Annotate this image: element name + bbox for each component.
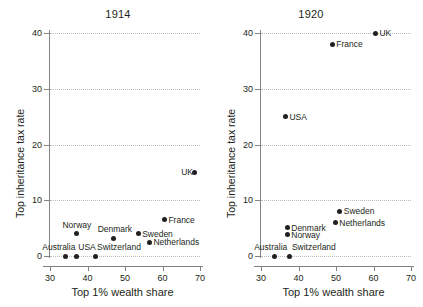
y-tick-10	[44, 200, 50, 201]
data-point	[285, 225, 290, 230]
data-point	[147, 240, 152, 245]
data-point	[283, 114, 288, 119]
data-point	[136, 231, 141, 236]
y-tick-label-30: 30	[20, 84, 42, 94]
y-axis-title: Top inheritance tax rate	[225, 109, 237, 218]
x-tick-70	[200, 266, 201, 271]
gridline-y-30	[50, 89, 200, 90]
data-point	[272, 254, 277, 259]
data-point-label: UK	[379, 29, 391, 38]
data-point-label: Netherlands	[339, 219, 385, 228]
gridline-y-10	[50, 200, 200, 201]
x-tick-60	[163, 266, 164, 271]
data-point-label: Sweden	[344, 207, 375, 216]
data-point-label: Switzerland	[292, 243, 336, 252]
data-point-label: Australia	[42, 243, 75, 252]
x-tick-label-40: 40	[73, 273, 103, 283]
y-tick-label-40: 40	[20, 28, 42, 38]
x-axis-line	[254, 266, 414, 267]
data-point-label: Denmark	[291, 224, 325, 233]
gridline-y-20	[50, 145, 200, 146]
gridline-y-0	[261, 256, 411, 257]
x-tick-label-40: 40	[284, 273, 314, 283]
data-point	[287, 254, 292, 259]
scatter-figure: 1914 0102030403040506070Top 1% wealth sh…	[0, 0, 423, 307]
x-tick-60	[374, 266, 375, 271]
x-axis-title: Top 1% wealth share	[251, 286, 416, 298]
data-point	[330, 42, 335, 47]
x-tick-label-50: 50	[321, 273, 351, 283]
panel-1914: 1914 0102030403040506070Top 1% wealth sh…	[0, 0, 212, 307]
x-tick-label-50: 50	[110, 273, 140, 283]
data-point-label: France	[336, 40, 362, 49]
data-point	[337, 209, 342, 214]
x-tick-40	[299, 266, 300, 271]
data-point-label: France	[168, 216, 194, 225]
y-axis-title: Top inheritance tax rate	[14, 109, 26, 218]
y-tick-40	[44, 33, 50, 34]
data-point-label: Switzerland	[97, 243, 141, 252]
y-tick-label-0: 0	[231, 251, 253, 261]
x-tick-30	[261, 266, 262, 271]
x-tick-70	[411, 266, 412, 271]
y-tick-label-30: 30	[231, 84, 253, 94]
y-tick-40	[255, 33, 261, 34]
x-tick-label-60: 60	[148, 273, 178, 283]
y-tick-30	[44, 89, 50, 90]
data-point-label: USA	[289, 113, 306, 122]
y-tick-30	[255, 89, 261, 90]
gridline-y-20	[261, 145, 411, 146]
data-point-label: Australia	[254, 243, 287, 252]
x-tick-40	[88, 266, 89, 271]
x-tick-30	[50, 266, 51, 271]
data-point-label: Netherlands	[153, 238, 199, 247]
data-point	[74, 254, 79, 259]
data-point	[63, 254, 68, 259]
y-tick-label-40: 40	[231, 28, 253, 38]
data-point	[74, 231, 79, 236]
gridline-y-30	[261, 89, 411, 90]
data-point	[373, 31, 378, 36]
x-tick-50	[336, 266, 337, 271]
gridline-y-10	[261, 200, 411, 201]
data-point	[111, 236, 116, 241]
data-point	[162, 217, 167, 222]
data-point	[93, 254, 98, 259]
y-tick-10	[255, 200, 261, 201]
data-point-label: USA	[78, 243, 95, 252]
x-tick-label-30: 30	[246, 273, 276, 283]
plot-area-1920: 0102030403040506070Top 1% wealth shareTo…	[211, 0, 423, 307]
x-axis-line	[43, 266, 203, 267]
y-tick-0	[44, 256, 50, 257]
panel-1920: 1920 0102030403040506070Top 1% wealth sh…	[211, 0, 423, 307]
x-tick-50	[125, 266, 126, 271]
y-tick-20	[255, 145, 261, 146]
y-tick-0	[255, 256, 261, 257]
gridline-y-40	[50, 33, 200, 34]
x-tick-label-30: 30	[35, 273, 65, 283]
data-point	[285, 232, 290, 237]
x-tick-label-70: 70	[396, 273, 423, 283]
x-tick-label-60: 60	[359, 273, 389, 283]
data-point-label: Denmark	[98, 225, 132, 234]
data-point	[333, 220, 338, 225]
gridline-y-0	[50, 256, 200, 257]
x-axis-title: Top 1% wealth share	[40, 286, 205, 298]
data-point-label: UK	[181, 168, 193, 177]
y-tick-label-0: 0	[20, 251, 42, 261]
y-tick-20	[44, 145, 50, 146]
plot-area-1914: 0102030403040506070Top 1% wealth shareTo…	[0, 0, 212, 307]
data-point-label: Norway	[62, 221, 91, 230]
